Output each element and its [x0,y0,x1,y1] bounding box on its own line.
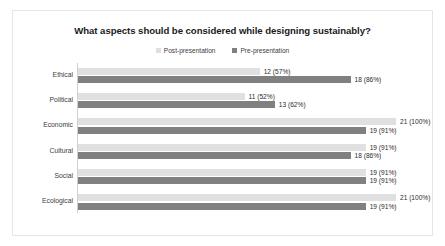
category-label-cultural: Cultural [21,147,73,154]
bars-group: 21 (100%)19 (91%) [78,190,426,215]
chart-title: What aspects should be considered while … [13,25,432,36]
bar-rect [78,203,366,210]
bar-row: Economic21 (100%)19 (91%) [21,114,426,139]
bar-rect [78,118,396,125]
bar-value-label: 19 (91%) [370,127,397,134]
legend-label-pre-presentation: Pre-presentation [240,47,289,54]
bar-row: Political11 (52%)13 (62%) [21,88,426,113]
bar-rect [78,76,351,83]
bar-rect [78,194,396,201]
bar-rect [78,127,366,134]
chart-legend: Post-presentation Pre-presentation [13,47,432,54]
bar-post-presentation[interactable]: 21 (100%) [78,118,430,125]
bar-row: Ecological21 (100%)19 (91%) [21,190,426,215]
bar-value-label: 19 (91%) [370,169,397,176]
bar-row: Social19 (91%)19 (91%) [21,164,426,189]
bar-value-label: 12 (57%) [264,68,291,75]
bars-group: 19 (91%)18 (86%) [78,139,426,164]
bar-value-label: 21 (100%) [400,194,430,201]
bar-rect [78,93,245,100]
bar-value-label: 19 (91%) [370,203,397,210]
bars-group: 12 (57%)18 (86%) [78,63,426,88]
bar-rect [78,101,275,108]
category-label-social: Social [21,172,73,179]
bar-value-label: 19 (91%) [370,144,397,151]
bar-pre-presentation[interactable]: 13 (62%) [78,101,306,108]
bar-value-label: 13 (62%) [279,101,306,108]
bar-value-label: 18 (86%) [355,152,382,159]
bar-rect [78,177,366,184]
plot-area: Ethical12 (57%)18 (86%)Political11 (52%)… [21,63,426,213]
bar-row: Cultural19 (91%)18 (86%) [21,139,426,164]
bar-rect [78,144,366,151]
bars-group: 21 (100%)19 (91%) [78,114,426,139]
bar-row: Ethical12 (57%)18 (86%) [21,63,426,88]
bar-rect [78,68,260,75]
category-label-ethical: Ethical [21,71,73,78]
bar-pre-presentation[interactable]: 19 (91%) [78,127,396,134]
legend-item-post-presentation[interactable]: Post-presentation [156,47,216,54]
legend-swatch-icon-post-presentation [156,48,161,53]
bars-group: 19 (91%)19 (91%) [78,164,426,189]
legend-swatch-icon-pre-presentation [232,48,237,53]
bar-value-label: 11 (52%) [249,93,275,100]
bar-value-label: 18 (86%) [355,76,382,83]
category-label-political: Political [21,96,73,103]
bar-rect [78,152,351,159]
bar-post-presentation[interactable]: 21 (100%) [78,194,430,201]
bar-post-presentation[interactable]: 19 (91%) [78,144,396,151]
category-label-ecological: Ecological [21,197,73,204]
bar-pre-presentation[interactable]: 18 (86%) [78,76,381,83]
legend-label-post-presentation: Post-presentation [164,47,216,54]
bar-pre-presentation[interactable]: 19 (91%) [78,177,396,184]
category-label-economic: Economic [21,121,73,128]
bar-value-label: 21 (100%) [400,118,430,125]
chart-container: What aspects should be considered while … [12,10,433,236]
bar-rect [78,169,366,176]
bar-post-presentation[interactable]: 11 (52%) [78,93,275,100]
bars-group: 11 (52%)13 (62%) [78,88,426,113]
bar-value-label: 19 (91%) [370,177,397,184]
bar-pre-presentation[interactable]: 18 (86%) [78,152,381,159]
legend-item-pre-presentation[interactable]: Pre-presentation [232,47,289,54]
bar-post-presentation[interactable]: 19 (91%) [78,169,396,176]
bar-post-presentation[interactable]: 12 (57%) [78,68,290,75]
bar-pre-presentation[interactable]: 19 (91%) [78,203,396,210]
